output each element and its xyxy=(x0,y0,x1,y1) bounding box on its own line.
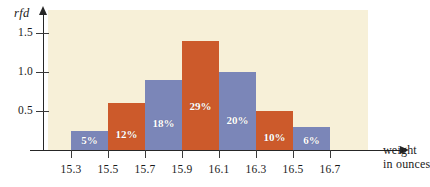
x-axis-tick-label: 15.7 xyxy=(125,163,165,175)
x-axis-title-line1: weight xyxy=(383,143,430,157)
histogram-bar: 5% xyxy=(71,131,108,151)
x-axis-tick-label: 16.5 xyxy=(273,163,313,175)
x-axis-title: weight in ounces xyxy=(383,143,430,171)
y-axis-tick-label: 0.5 xyxy=(0,105,33,117)
x-axis-title-line2: in ounces xyxy=(383,157,430,171)
y-axis-tick xyxy=(36,72,49,73)
y-axis-tick-label: 1.5 xyxy=(0,27,33,39)
bar-percent-label: 6% xyxy=(293,135,330,146)
y-axis-arrow-icon xyxy=(39,6,47,15)
histogram-bar: 18% xyxy=(145,80,182,150)
histogram-bar: 29% xyxy=(182,41,219,150)
y-axis-tick-label: 1.0 xyxy=(0,66,33,78)
bar-percent-label: 5% xyxy=(71,135,108,146)
y-axis-tick xyxy=(36,33,49,34)
y-axis-tick xyxy=(36,111,49,112)
y-axis-title: rfd xyxy=(14,7,30,20)
x-axis-tick xyxy=(108,150,109,158)
x-axis-tick-label: 16.3 xyxy=(236,163,276,175)
x-axis-tick-label: 16.1 xyxy=(199,163,239,175)
bar-percent-label: 29% xyxy=(182,101,219,112)
x-axis-tick xyxy=(71,150,72,158)
x-axis-tick xyxy=(182,150,183,158)
bar-percent-label: 12% xyxy=(108,129,145,140)
bar-percent-label: 18% xyxy=(145,118,182,129)
histogram-bar: 6% xyxy=(293,127,330,150)
x-axis-tick-label: 16.7 xyxy=(310,163,350,175)
x-axis-tick-label: 15.9 xyxy=(162,163,202,175)
x-axis-tick xyxy=(145,150,146,158)
x-axis-tick xyxy=(330,150,331,158)
x-axis-tick-label: 15.5 xyxy=(88,163,128,175)
x-axis-tick xyxy=(256,150,257,158)
histogram-bar: 20% xyxy=(219,72,256,150)
x-axis-line xyxy=(30,150,402,151)
x-axis-tick-label: 15.3 xyxy=(51,163,91,175)
histogram-bar: 10% xyxy=(256,111,293,150)
histogram-bar: 12% xyxy=(108,103,145,150)
x-axis-tick xyxy=(219,150,220,158)
bar-percent-label: 10% xyxy=(256,132,293,143)
bar-percent-label: 20% xyxy=(219,115,256,126)
x-axis-tick xyxy=(293,150,294,158)
y-axis-line xyxy=(43,14,44,150)
